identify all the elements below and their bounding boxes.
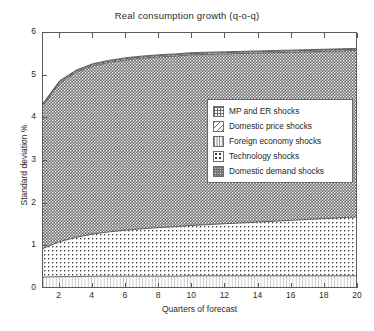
y-axis-tick-label: 3 (0, 154, 36, 164)
x-axis-tick-top (291, 33, 292, 38)
chart-title: Real consumption growth (q-o-q) (0, 10, 374, 21)
x-axis-tick-label: 10 (179, 290, 203, 300)
x-axis-tick-top (92, 33, 93, 38)
legend-item: Foreign economy shocks (213, 134, 347, 149)
diagonal-swatch (213, 121, 224, 132)
x-axis-tick (224, 283, 225, 288)
legend-item: Domestic demand shocks (213, 164, 347, 179)
area-band (43, 276, 357, 288)
grid-swatch (213, 106, 224, 117)
dots-swatch (213, 151, 224, 162)
legend-label: MP and ER shocks (229, 106, 299, 117)
legend-item: Domestic price shocks (213, 119, 347, 134)
x-axis-tick-label: 12 (212, 290, 236, 300)
x-axis-tick-top (324, 33, 325, 38)
x-axis-tick-label: 16 (279, 290, 303, 300)
legend-label: Domestic price shocks (229, 121, 312, 132)
x-axis-tick-top (125, 33, 126, 38)
y-axis-tick-label: 0 (0, 282, 36, 292)
x-axis-tick-top (357, 33, 358, 38)
x-axis-tick (125, 283, 126, 288)
y-axis-tick-label: 2 (0, 197, 36, 207)
y-axis-tick (42, 75, 47, 76)
legend-item: Technology shocks (213, 149, 347, 164)
x-axis-tick (291, 283, 292, 288)
y-axis-tick-label: 4 (0, 111, 36, 121)
x-axis-tick (158, 283, 159, 288)
x-axis-tick-top (224, 33, 225, 38)
legend-item: MP and ER shocks (213, 104, 347, 119)
y-axis-tick-label: 6 (0, 26, 36, 36)
vertical-lines-swatch (213, 136, 224, 147)
legend-label: Foreign economy shocks (229, 136, 321, 147)
x-axis-tick-label: 8 (146, 290, 170, 300)
legend-label: Technology shocks (229, 151, 299, 162)
x-axis-tick-top (59, 33, 60, 38)
x-axis-tick-label: 4 (80, 290, 104, 300)
x-axis-tick (324, 283, 325, 288)
legend: MP and ER shocks Domestic price shocks F… (207, 99, 353, 183)
y-axis-tick (42, 203, 47, 204)
y-axis-title: Standard deviation % (19, 95, 29, 235)
x-axis-tick-label: 2 (47, 290, 71, 300)
dense-dots-swatch (213, 166, 224, 177)
x-axis-tick-top (191, 33, 192, 38)
x-axis-tick (92, 283, 93, 288)
x-axis-tick-label: 18 (312, 290, 336, 300)
x-axis-tick-top (158, 33, 159, 38)
y-axis-tick-label: 5 (0, 69, 36, 79)
x-axis-tick-label: 14 (246, 290, 270, 300)
legend-label: Domestic demand shocks (229, 166, 324, 177)
y-axis-tick-label: 1 (0, 239, 36, 249)
x-axis-tick-label: 6 (113, 290, 137, 300)
figure: Real consumption growth (q-o-q) (0, 0, 374, 331)
y-axis-tick (42, 160, 47, 161)
y-axis-tick (42, 245, 47, 246)
x-axis-tick (191, 283, 192, 288)
x-axis-tick (357, 283, 358, 288)
y-axis-tick (42, 117, 47, 118)
x-axis-title: Quarters of forecast (42, 304, 357, 314)
x-axis-tick (59, 283, 60, 288)
x-axis-tick-top (258, 33, 259, 38)
x-axis-tick (258, 283, 259, 288)
x-axis-tick-label: 20 (345, 290, 369, 300)
